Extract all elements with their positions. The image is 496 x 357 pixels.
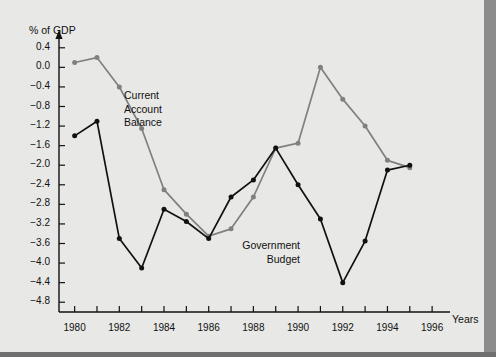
data-point [72,60,77,65]
x-tick-label: 1988 [233,322,273,333]
series-label-line: Account [124,103,162,117]
series-label-line: Government [180,239,300,253]
x-tick-label: 1984 [144,322,184,333]
y-tick-label: −0.4 [20,80,50,91]
series-label-government-budget: Government Budget [180,239,300,266]
series-label-line: Budget [180,253,300,267]
data-point [94,119,99,124]
x-axis-title: Years [452,313,478,325]
y-tick-label: 0.4 [20,41,50,52]
figure-bottom-border [0,352,496,357]
y-tick-label: −1.6 [20,139,50,150]
axis-ticks [59,48,432,312]
data-point [229,195,234,200]
data-point [117,236,122,241]
x-tick-label: 1980 [55,322,95,333]
series-line [75,58,410,237]
data-point [407,163,412,168]
data-point [363,124,368,129]
y-tick-label: −4.8 [20,295,50,306]
y-tick-label: −2.8 [20,197,50,208]
data-point [184,219,189,224]
y-tick-label: −0.8 [20,100,50,111]
x-tick-label: 1990 [278,322,318,333]
data-point [251,195,256,200]
series-label-line: Current [124,89,162,103]
data-point [296,182,301,187]
data-point [117,84,122,89]
data-point [72,133,77,138]
data-point [385,158,390,163]
figure-right-border [484,0,496,357]
chart-figure: % of GDP Years Current Account Balance G… [0,0,496,357]
y-tick-label: −2.0 [20,158,50,169]
y-tick-label: −3.2 [20,217,50,228]
x-tick-label: 1996 [412,322,452,333]
series-label-current-account-balance: Current Account Balance [124,89,162,130]
data-point [94,55,99,60]
y-tick-label: −4.0 [20,256,50,267]
data-point [251,177,256,182]
data-point [296,141,301,146]
x-tick-label: 1986 [189,322,229,333]
y-tick-label: −2.4 [20,178,50,189]
data-point [184,212,189,217]
y-tick-label: −1.2 [20,119,50,130]
y-tick-label: −3.6 [20,237,50,248]
data-point [139,265,144,270]
data-point [340,280,345,285]
data-point [385,168,390,173]
data-point [318,65,323,70]
y-axis-title: % of GDP [29,24,76,36]
x-tick-label: 1994 [367,322,407,333]
data-point [318,217,323,222]
data-point [162,187,167,192]
data-point [229,226,234,231]
x-tick-label: 1992 [323,322,363,333]
axis-lines [55,30,450,312]
series-current-account-balance [72,55,412,239]
y-tick-label: −4.4 [20,276,50,287]
data-point [273,146,278,151]
line-chart-plot [0,0,496,357]
x-tick-label: 1982 [99,322,139,333]
data-point [363,239,368,244]
data-point [340,97,345,102]
data-point [162,207,167,212]
y-tick-label: 0.0 [20,60,50,71]
series-label-line: Balance [124,116,162,130]
